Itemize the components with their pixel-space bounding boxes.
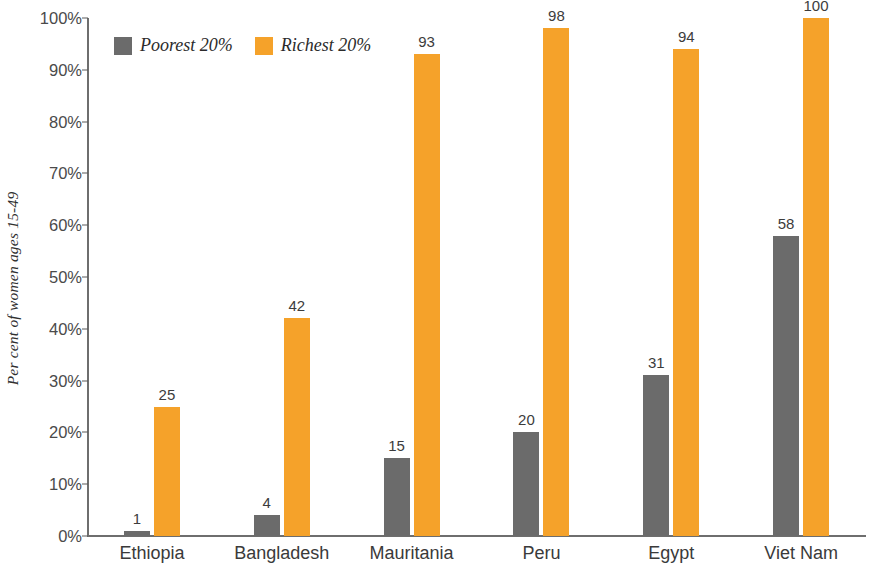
bar-column: 15	[384, 18, 410, 536]
bar-poorest[interactable]	[643, 375, 669, 536]
bar-value-label: 98	[526, 8, 586, 23]
y-axis-tick-mark	[82, 173, 88, 174]
x-axis-tick-label: Viet Nam	[736, 543, 866, 564]
bar-value-label: 42	[267, 298, 327, 313]
y-axis-title: Per cent of women ages 15-49	[0, 0, 26, 577]
bar-column: 100	[803, 18, 829, 536]
bar-groups: 12544215932098319458100	[87, 18, 866, 536]
x-axis-tick-label: Ethiopia	[87, 543, 217, 564]
bar-value-label: 93	[397, 34, 457, 49]
bar-poorest[interactable]	[124, 531, 150, 536]
x-axis-tick-label: Peru	[476, 543, 606, 564]
bar-group-bars: 442	[217, 18, 347, 536]
y-axis-tick-mark	[82, 18, 88, 19]
bar-group-bars: 58100	[736, 18, 866, 536]
bar-column: 42	[284, 18, 310, 536]
bar-richest[interactable]	[414, 54, 440, 536]
bar-richest[interactable]	[154, 407, 180, 537]
bar-richest[interactable]	[803, 18, 829, 536]
bar-column: 93	[414, 18, 440, 536]
y-axis-tick-mark	[82, 484, 88, 485]
bar-column: 20	[513, 18, 539, 536]
y-axis-tick-label: 90%	[49, 60, 82, 79]
bar-column: 98	[543, 18, 569, 536]
y-axis-tick-mark	[82, 225, 88, 226]
y-axis-tick-label: 40%	[49, 319, 82, 338]
y-axis-tick-labels: 0%10%20%30%40%50%60%70%80%90%100%	[30, 18, 82, 536]
bar-poorest[interactable]	[513, 432, 539, 536]
bar-richest[interactable]	[284, 318, 310, 536]
y-axis-tick-label: 60%	[49, 216, 82, 235]
x-axis-tick-label: Egypt	[606, 543, 736, 564]
bar-column: 4	[254, 18, 280, 536]
bar-group: 2098	[476, 18, 606, 536]
x-axis-tick-label: Mauritania	[347, 543, 477, 564]
y-axis-tick-label: 20%	[49, 423, 82, 442]
bar-column: 58	[773, 18, 799, 536]
y-axis-tick-mark	[82, 380, 88, 381]
y-axis-tick-mark	[82, 432, 88, 433]
y-axis-tick-label: 70%	[49, 164, 82, 183]
bar-value-label: 25	[137, 387, 197, 402]
y-axis-tick-label: 0%	[58, 527, 82, 546]
bar-poorest[interactable]	[254, 515, 280, 536]
bar-group: 442	[217, 18, 347, 536]
bar-group: 1593	[347, 18, 477, 536]
bar-group: 58100	[736, 18, 866, 536]
y-axis-tick-mark	[82, 328, 88, 329]
bar-value-label: 100	[786, 0, 846, 13]
x-axis-tick-label: Bangladesh	[217, 543, 347, 564]
y-axis-tick-label: 30%	[49, 371, 82, 390]
y-axis-tick-label: 10%	[49, 475, 82, 494]
y-axis-tick-mark	[82, 121, 88, 122]
y-axis-tick-label: 100%	[40, 9, 82, 28]
y-axis-tick-mark	[82, 69, 88, 70]
bar-group-bars: 2098	[476, 18, 606, 536]
bar-poorest[interactable]	[384, 458, 410, 536]
y-axis-tick-label: 80%	[49, 112, 82, 131]
bar-chart: Per cent of women ages 15-49 0%10%20%30%…	[0, 0, 879, 577]
bar-group-bars: 3194	[606, 18, 736, 536]
bar-group-bars: 1593	[347, 18, 477, 536]
bar-value-label: 94	[656, 29, 716, 44]
y-axis-tick-mark	[82, 536, 88, 537]
bar-column: 1	[124, 18, 150, 536]
bar-column: 25	[154, 18, 180, 536]
bar-poorest[interactable]	[773, 236, 799, 536]
x-axis-tick-labels: EthiopiaBangladeshMauritaniaPeruEgyptVie…	[87, 543, 866, 564]
bar-richest[interactable]	[673, 49, 699, 536]
bar-richest[interactable]	[543, 28, 569, 536]
y-axis-tick-mark	[82, 277, 88, 278]
y-axis-tick-label: 50%	[49, 268, 82, 287]
bar-column: 94	[673, 18, 699, 536]
bar-group-bars: 125	[87, 18, 217, 536]
bar-column: 31	[643, 18, 669, 536]
bar-group: 125	[87, 18, 217, 536]
bar-group: 3194	[606, 18, 736, 536]
